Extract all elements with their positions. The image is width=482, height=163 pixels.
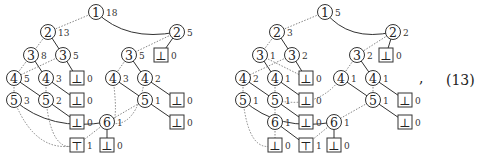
- node-count: 0: [344, 141, 350, 151]
- node-count: 1: [285, 74, 291, 84]
- node-count: 0: [187, 118, 193, 128]
- node-count: 2: [367, 51, 373, 61]
- variable-node: 51: [366, 93, 389, 108]
- node-count: 3: [123, 74, 129, 84]
- terminal-false-node: ⊥0: [268, 138, 291, 153]
- node-count: 1: [316, 141, 322, 151]
- node-count: 2: [403, 28, 409, 38]
- node-label: ⊥: [399, 94, 410, 108]
- node-label: ⊤: [71, 139, 82, 153]
- terminal-false-node: ⊥0: [299, 115, 322, 130]
- bdd-diagram-figure: 11821325383535⊥04543⊥043425352⊥051⊥0⊥061…: [0, 0, 482, 163]
- node-label: 5: [271, 93, 279, 108]
- node-count: 1: [344, 118, 350, 128]
- node-label: ⊥: [155, 49, 166, 63]
- decision-diagrams-svg: 11821325383535⊥04543⊥043425352⊥051⊥0⊥061…: [0, 0, 482, 163]
- node-count: 1: [285, 96, 291, 106]
- node-count: 2: [302, 51, 308, 61]
- node-label: 6: [330, 115, 338, 130]
- variable-node: 42: [236, 71, 259, 86]
- node-count: 0: [316, 74, 322, 84]
- node-count: 3: [24, 96, 30, 106]
- node-label: 4: [337, 71, 345, 86]
- terminal-false-node: ⊥0: [70, 71, 93, 86]
- nodes-layer: 11821325383535⊥04543⊥043425352⊥051⊥0⊥061…: [7, 5, 422, 153]
- node-label: 4: [369, 71, 377, 86]
- variable-node: 22: [386, 25, 409, 40]
- node-label: 4: [42, 71, 50, 86]
- variable-node: 35: [56, 48, 80, 63]
- node-count: 18: [106, 8, 118, 18]
- node-count: 2: [155, 74, 161, 84]
- terminal-false-node: ⊥0: [327, 138, 350, 153]
- node-label: ⊥: [71, 94, 82, 108]
- node-count: 0: [87, 74, 93, 84]
- terminal-false-node: ⊥0: [398, 93, 421, 108]
- node-count: 5: [24, 74, 30, 84]
- variable-node: 52: [39, 93, 62, 108]
- node-label: 2: [273, 25, 281, 40]
- node-count: 0: [415, 118, 421, 128]
- node-count: 1: [155, 96, 161, 106]
- node-count: 5: [187, 28, 193, 38]
- variable-node: 51: [138, 93, 161, 108]
- node-label: 5: [369, 93, 377, 108]
- node-count: 1: [117, 118, 123, 128]
- node-label: 4: [141, 71, 149, 86]
- variable-node: 41: [366, 71, 389, 86]
- node-label: 5: [239, 93, 247, 108]
- node-count: 1: [87, 141, 93, 151]
- node-label: ⊥: [399, 116, 410, 130]
- node-label: 5: [42, 93, 50, 108]
- terminal-false-node: ⊥0: [154, 48, 177, 63]
- variable-node: 213: [41, 25, 70, 40]
- variable-node: 31: [253, 48, 276, 63]
- node-count: 0: [87, 118, 93, 128]
- node-label: 3: [353, 48, 361, 63]
- node-count: 0: [415, 96, 421, 106]
- node-label: 3: [59, 48, 67, 63]
- node-label: 3: [288, 48, 296, 63]
- variable-node: 51: [268, 93, 291, 108]
- node-label: ⊥: [71, 72, 82, 86]
- variable-node: 61: [268, 115, 291, 130]
- equation-number: (13): [446, 72, 475, 88]
- node-label: 2: [173, 25, 181, 40]
- terminal-false-node: ⊥0: [70, 93, 93, 108]
- variable-node: 38: [24, 48, 48, 63]
- node-count: 0: [316, 118, 322, 128]
- variable-node: 42: [138, 71, 161, 86]
- variable-node: 32: [350, 48, 373, 63]
- node-count: 0: [187, 96, 193, 106]
- terminal-false-node: ⊥0: [379, 48, 402, 63]
- node-count: 8: [41, 51, 47, 61]
- variable-node: 61: [327, 115, 350, 130]
- node-count: 5: [73, 51, 79, 61]
- node-count: 5: [335, 8, 341, 18]
- variable-node: 15: [318, 5, 342, 20]
- node-label: ⊥: [328, 139, 339, 153]
- node-count: 1: [270, 51, 276, 61]
- node-label: 5: [141, 93, 149, 108]
- node-label: 3: [27, 48, 35, 63]
- node-label: ⊥: [300, 72, 311, 86]
- node-label: ⊥: [300, 94, 311, 108]
- node-label: 6: [103, 115, 111, 130]
- variable-node: 118: [89, 5, 118, 20]
- node-label: ⊤: [300, 139, 311, 153]
- terminal-false-node: ⊥0: [398, 115, 421, 130]
- variable-node: 25: [170, 25, 194, 40]
- variable-node: 32: [285, 48, 308, 63]
- variable-node: 41: [268, 71, 291, 86]
- node-count: 3: [56, 74, 62, 84]
- variable-node: 43: [39, 71, 63, 86]
- node-label: 6: [271, 115, 279, 130]
- terminal-false-node: ⊥0: [170, 93, 193, 108]
- node-count: 1: [253, 96, 259, 106]
- terminal-false-node: ⊥0: [299, 71, 322, 86]
- node-count: 0: [171, 51, 177, 61]
- node-count: 1: [285, 118, 291, 128]
- node-label: 2: [389, 25, 397, 40]
- node-count: 1: [383, 74, 389, 84]
- node-count: 13: [58, 28, 70, 38]
